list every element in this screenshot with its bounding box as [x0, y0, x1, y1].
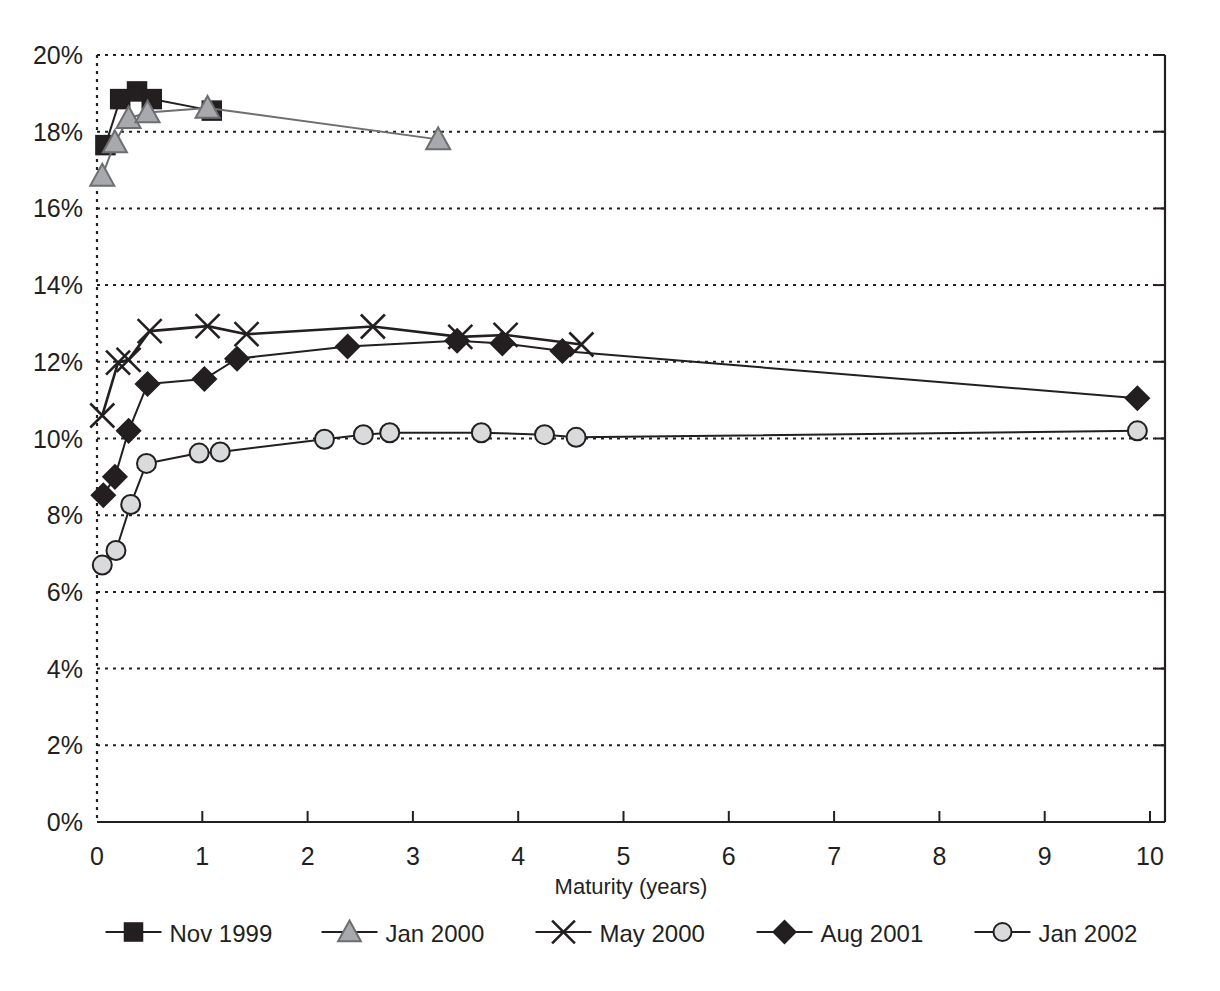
y-axis-tick-label: 16% [33, 194, 83, 222]
y-axis-tick-label: 2% [47, 731, 83, 759]
data-point-marker [93, 556, 112, 575]
data-point-marker [117, 106, 141, 128]
x-axis-tick-label: 10 [1136, 842, 1164, 870]
data-point-marker [225, 347, 249, 371]
data-point-marker [315, 430, 334, 449]
x-axis-tick-label: 5 [617, 842, 631, 870]
y-axis-tick-label: 14% [33, 271, 83, 299]
legend-label: May 2000 [600, 920, 705, 947]
data-series-layer [90, 82, 1149, 575]
y-axis-tick-label: 12% [33, 348, 83, 376]
series-jan-2002 [93, 421, 1147, 574]
data-point-marker [380, 423, 399, 442]
x-axis-tick-labels: 012345678910 [90, 842, 1164, 870]
data-point-marker [90, 403, 114, 427]
data-point-marker [90, 164, 114, 186]
data-point-marker [121, 495, 140, 514]
data-point-marker [567, 428, 586, 447]
y-axis-tick-label: 18% [33, 118, 83, 146]
data-point-marker [103, 465, 127, 489]
y-axis-tick-label: 4% [47, 655, 83, 683]
x-axis-tick-label: 9 [1038, 842, 1052, 870]
legend-item-jan-2000[interactable]: Jan 2000 [322, 920, 485, 947]
data-point-marker [117, 419, 141, 443]
legend-label: Nov 1999 [170, 920, 273, 947]
series-line [103, 341, 1137, 496]
data-point-marker [136, 372, 160, 396]
chart-legend: Nov 1999Jan 2000May 2000Aug 2001Jan 2002 [106, 920, 1138, 947]
y-axis-tick-label: 20% [33, 41, 83, 69]
x-axis-title-text: Maturity (years) [555, 874, 708, 899]
x-axis-tick-label: 3 [406, 842, 420, 870]
data-point-marker [106, 541, 125, 560]
data-point-marker [993, 923, 1011, 941]
data-point-marker [336, 334, 360, 358]
x-axis-tick-label: 1 [195, 842, 209, 870]
data-point-marker [211, 442, 230, 461]
x-axis-tick-label: 4 [511, 842, 525, 870]
legend-item-aug-2001[interactable]: Aug 2001 [757, 920, 924, 947]
x-axis-tick-label: 6 [722, 842, 736, 870]
legend-label: Aug 2001 [821, 920, 924, 947]
y-axis-tick-label: 8% [47, 501, 83, 529]
legend-label: Jan 2000 [386, 920, 485, 947]
data-point-marker [1125, 386, 1149, 410]
data-point-marker [137, 454, 156, 473]
data-point-marker [773, 921, 796, 944]
legend-item-nov-1999[interactable]: Nov 1999 [106, 920, 273, 947]
data-point-marker [124, 923, 142, 941]
data-point-marker [190, 444, 209, 463]
legend-label: Jan 2002 [1039, 920, 1138, 947]
legend-item-may-2000[interactable]: May 2000 [536, 920, 705, 947]
chart-page: 0%2%4%6%8%10%12%14%16%18%20% 01234567891… [0, 0, 1220, 991]
x-axis-title: Maturity (years) [555, 874, 708, 899]
yield-curve-chart: 0%2%4%6%8%10%12%14%16%18%20% 01234567891… [0, 0, 1220, 991]
data-point-marker [91, 483, 115, 507]
y-axis-tick-labels: 0%2%4%6%8%10%12%14%16%18%20% [33, 41, 83, 836]
x-axis-tick-label: 0 [90, 842, 104, 870]
data-point-marker [1128, 421, 1147, 440]
series-jan-2000 [90, 96, 450, 186]
x-axis-tick-label: 2 [301, 842, 315, 870]
x-axis-tick-label: 8 [932, 842, 946, 870]
y-axis-tick-label: 0% [47, 808, 83, 836]
y-axis-tick-label: 6% [47, 578, 83, 606]
series-line [102, 431, 1137, 565]
data-point-marker [472, 423, 491, 442]
gridlines [97, 55, 1165, 745]
data-point-marker [535, 425, 554, 444]
y-axis-tick-label: 10% [33, 425, 83, 453]
data-point-marker [354, 425, 373, 444]
data-point-marker [192, 367, 216, 391]
series-may-2000 [90, 314, 593, 427]
x-axis-tick-label: 7 [827, 842, 841, 870]
series-aug-2001 [91, 329, 1149, 508]
legend-item-jan-2002[interactable]: Jan 2002 [975, 920, 1138, 947]
